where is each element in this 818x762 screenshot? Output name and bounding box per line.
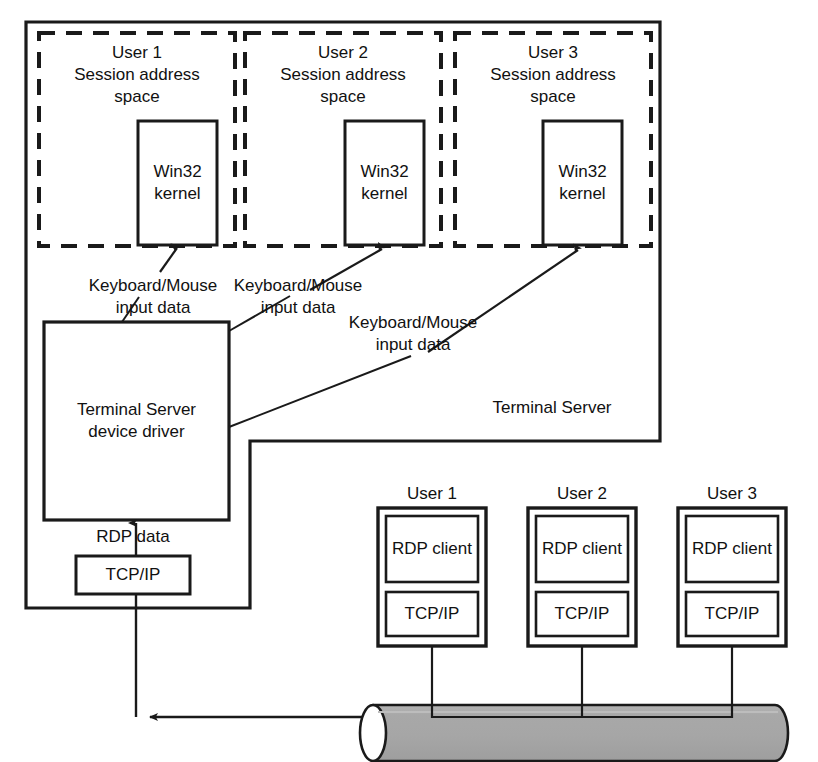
session-user-label-3: User 3	[455, 42, 651, 64]
session-user-label-2: User 2	[245, 42, 441, 64]
win32-kernel-label-1: Win32 kernel	[138, 121, 217, 245]
cable-open-end	[360, 705, 386, 761]
rdp-client-label-1: RDP client	[386, 516, 478, 582]
win32-kernel-label-2: Win32 kernel	[345, 121, 424, 245]
input-arrow-user-1	[160, 248, 177, 272]
server-tcpip-label: TCP/IP	[76, 556, 190, 594]
rdp-data-label: RDP data	[76, 526, 190, 548]
leader-line-user-3	[229, 356, 411, 427]
client-tcpip-label-2: TCP/IP	[536, 592, 628, 636]
session-user-label-1: User 1	[39, 42, 235, 64]
device-driver-label: Terminal Server device driver	[44, 322, 229, 520]
server-network-link	[136, 594, 400, 717]
rdp-client-label-3: RDP client	[686, 516, 778, 582]
terminal-server-label: Terminal Server	[452, 397, 652, 419]
client-tcpip-label-1: TCP/IP	[386, 592, 478, 636]
client-tcpip-label-3: TCP/IP	[686, 592, 778, 636]
input-data-label-3: Keyboard/Mouse input data	[318, 312, 508, 356]
rdp-client-label-2: RDP client	[536, 516, 628, 582]
terminal-server-diagram: User 1 Session address space Win32 kerne…	[0, 0, 818, 762]
cable-body	[373, 705, 788, 761]
client-user-label-3: User 3	[678, 483, 786, 505]
network-cable	[360, 705, 788, 761]
win32-kernel-label-3: Win32 kernel	[543, 121, 622, 245]
client-user-label-1: User 1	[378, 483, 486, 505]
client-user-label-2: User 2	[528, 483, 636, 505]
session-address-space-label-2: Session address space	[245, 64, 441, 108]
session-address-space-label-1: Session address space	[39, 64, 235, 108]
session-address-space-label-3: Session address space	[455, 64, 651, 108]
